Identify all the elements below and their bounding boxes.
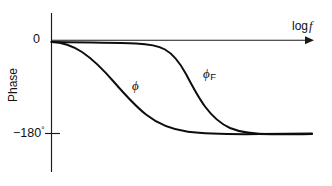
x-axis-title-prefix: log	[292, 19, 308, 33]
arrow-right-icon	[305, 36, 314, 44]
curve-label-phi-f-base: ϕ	[203, 66, 210, 81]
y-axis-title: Phase	[7, 59, 19, 111]
phase-plot-figure: 0 −180° Phase logf ϕ ϕF	[0, 0, 332, 186]
degree-symbol: °	[41, 125, 44, 135]
x-axis-title: logf	[292, 20, 313, 33]
y-axis-tick-label-zero: 0	[33, 33, 40, 46]
x-axis-title-variable: f	[308, 19, 312, 33]
y-axis-tick-label-neg180: −180°	[13, 126, 45, 139]
phase-curve-phi-f	[52, 42, 313, 134]
curve-label-phi-f-subscript: F	[210, 71, 216, 82]
plot-canvas	[0, 0, 332, 186]
curve-label-phi: ϕ	[132, 79, 139, 92]
phase-curve-phi	[52, 42, 313, 134]
curve-label-phi-f: ϕF	[203, 67, 216, 81]
neg180-value: −180	[13, 126, 41, 140]
